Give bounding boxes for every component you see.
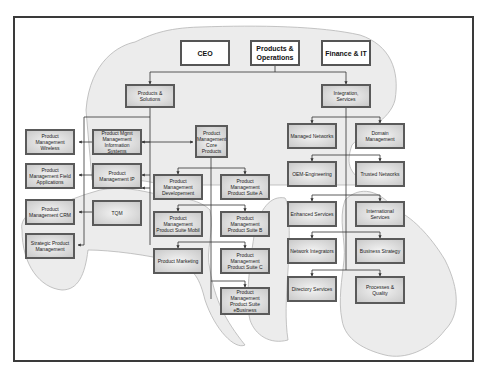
node-processes-quality[interactable]: Processes & Quality bbox=[355, 276, 405, 304]
node-label: Product Management Field Applications bbox=[28, 167, 72, 185]
node-label: Products & Solutions bbox=[128, 90, 172, 102]
node-products-solutions[interactable]: Products & Solutions bbox=[125, 84, 175, 108]
node-label: Domain Management bbox=[358, 130, 402, 142]
node-integration-services[interactable]: Integration, Services bbox=[321, 84, 371, 108]
node-pm-wireless[interactable]: Product Management Wireless bbox=[25, 129, 75, 155]
node-pm-suite-b[interactable]: Product Management Product Suite B bbox=[220, 211, 270, 237]
node-label: Product Management Product Suite Mobil bbox=[156, 215, 200, 233]
node-label: TQM bbox=[111, 210, 122, 216]
node-label: Enhanced Services bbox=[290, 211, 333, 217]
node-label: Network Integrators bbox=[290, 248, 334, 254]
node-label: Managed Networks bbox=[290, 133, 333, 139]
node-enhanced-services[interactable]: Enhanced Services bbox=[287, 201, 337, 227]
node-pm-field-applications[interactable]: Product Management Field Applications bbox=[25, 163, 75, 189]
node-label: Product Management CRM bbox=[28, 206, 72, 218]
node-ceo[interactable]: CEO bbox=[180, 40, 230, 66]
node-directory-services[interactable]: Directory Services bbox=[287, 276, 337, 302]
node-pm-mis[interactable]: Product Mgmt Management Information Syst… bbox=[92, 129, 142, 155]
node-trusted-networks[interactable]: Trusted Networks bbox=[355, 161, 405, 187]
node-label: Product Management Product Suite eBusine… bbox=[223, 289, 267, 313]
node-products-operations[interactable]: Products & Operations bbox=[250, 40, 300, 66]
node-label: Product Management Product Suite A bbox=[223, 178, 267, 196]
node-domain-management[interactable]: Domain Management bbox=[355, 123, 405, 149]
node-tqm[interactable]: TQM bbox=[92, 200, 142, 226]
node-label: Processes & Quality bbox=[358, 284, 402, 296]
node-label: Finance & IT bbox=[325, 49, 367, 58]
node-pm-crm[interactable]: Product Management CRM bbox=[25, 199, 75, 225]
node-label: Product Mgmt Management Information Syst… bbox=[95, 130, 139, 154]
node-label: International Services bbox=[358, 208, 402, 220]
node-pm-ip[interactable]: Product Management IP bbox=[92, 163, 142, 189]
node-label: Products & Operations bbox=[253, 44, 297, 62]
node-product-marketing[interactable]: Product Marketing bbox=[153, 248, 203, 274]
node-strategic-pm[interactable]: Strategic Product Management bbox=[25, 233, 75, 259]
node-label: Business Strategy bbox=[360, 248, 400, 254]
node-managed-networks[interactable]: Managed Networks bbox=[287, 123, 337, 149]
node-label: Integration, Services bbox=[324, 90, 368, 102]
node-business-strategy[interactable]: Business Strategy bbox=[355, 238, 405, 264]
node-network-integrators[interactable]: Network Integrators bbox=[287, 238, 337, 264]
node-label: Trusted Networks bbox=[361, 171, 400, 177]
node-pm-suite-mobil[interactable]: Product Management Product Suite Mobil bbox=[153, 211, 203, 237]
node-international-services[interactable]: International Services bbox=[355, 201, 405, 227]
node-label: Strategic Product Management bbox=[28, 240, 72, 252]
node-pm-development[interactable]: Product Management Developement bbox=[153, 174, 203, 200]
node-label: Product Management Core Products bbox=[197, 130, 226, 154]
node-pm-suite-a[interactable]: Product Management Product Suite A bbox=[220, 174, 270, 200]
node-label: Product Management Product Suite C bbox=[223, 252, 267, 270]
node-pm-core[interactable]: Product Management Core Products bbox=[195, 125, 228, 158]
node-label: Product Management Developement bbox=[156, 178, 200, 196]
node-pm-suite-c[interactable]: Product Management Product Suite C bbox=[220, 248, 270, 274]
node-label: Product Management IP bbox=[95, 170, 139, 182]
node-label: OEM-Engineering bbox=[292, 171, 332, 177]
node-label: CEO bbox=[197, 49, 212, 58]
node-pm-suite-ebusiness[interactable]: Product Management Product Suite eBusine… bbox=[220, 287, 270, 315]
node-label: Product Marketing bbox=[158, 258, 199, 264]
node-oem-engineering[interactable]: OEM-Engineering bbox=[287, 161, 337, 187]
node-label: Directory Services bbox=[292, 286, 333, 292]
node-finance-it[interactable]: Finance & IT bbox=[321, 40, 371, 66]
node-label: Product Management Product Suite B bbox=[223, 215, 267, 233]
node-label: Product Management Wireless bbox=[28, 133, 72, 151]
